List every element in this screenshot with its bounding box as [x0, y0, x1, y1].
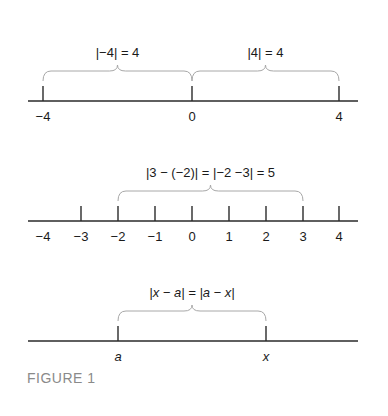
brace-equation-label: |3 − (−2)| = |−2 −3| = 5	[146, 165, 275, 180]
tick-label: −1	[148, 229, 163, 244]
figure-caption: FIGURE 1	[27, 370, 96, 386]
curly-brace	[118, 185, 303, 201]
tick-label: 4	[335, 229, 342, 244]
tick-label: 3	[299, 229, 306, 244]
tick-label: −4	[36, 109, 51, 124]
brace-equation-label: |x − a| = |a − x|	[149, 285, 234, 300]
tick-label: 0	[188, 229, 195, 244]
tick-label: 2	[262, 229, 269, 244]
curly-brace	[43, 65, 192, 81]
tick-label: 1	[225, 229, 232, 244]
distance-between-a-and-x: ax|x − a| = |a − x|	[28, 285, 358, 364]
tick-label: a	[114, 349, 121, 364]
curly-brace	[118, 305, 266, 321]
distance-between-3-and-minus-2: −4−3−2−101234|3 − (−2)| = |−2 −3| = 5	[28, 165, 358, 244]
tick-label: −3	[74, 229, 89, 244]
brace-equation-label: |4| = 4	[247, 45, 283, 60]
tick-label: 4	[335, 109, 342, 124]
tick-label: 0	[188, 109, 195, 124]
tick-label: −4	[36, 229, 51, 244]
brace-equation-label: |−4| = 4	[96, 45, 140, 60]
number-line-figure: −404|−4| = 4|4| = 4−4−3−2−101234|3 − (−2…	[0, 0, 388, 416]
tick-label: −2	[111, 229, 126, 244]
tick-label: x	[262, 349, 270, 364]
curly-brace	[192, 65, 339, 81]
absolute-value-of-4: −404|−4| = 4|4| = 4	[28, 45, 358, 124]
